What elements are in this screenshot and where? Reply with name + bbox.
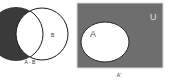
diagram-a-complement: A U A' [77,3,163,78]
universe-label: U [150,12,157,22]
caption-a-complement: A' [117,72,121,78]
caption-a-minus-b: A - B [25,59,37,65]
diagram-a-minus-b: B A - B [0,7,68,65]
set-a-label: A [90,29,96,39]
set-b-circle [16,8,68,60]
set-a-ellipse [81,22,129,62]
venn-diagrams: B A - B A U A' [0,0,169,81]
